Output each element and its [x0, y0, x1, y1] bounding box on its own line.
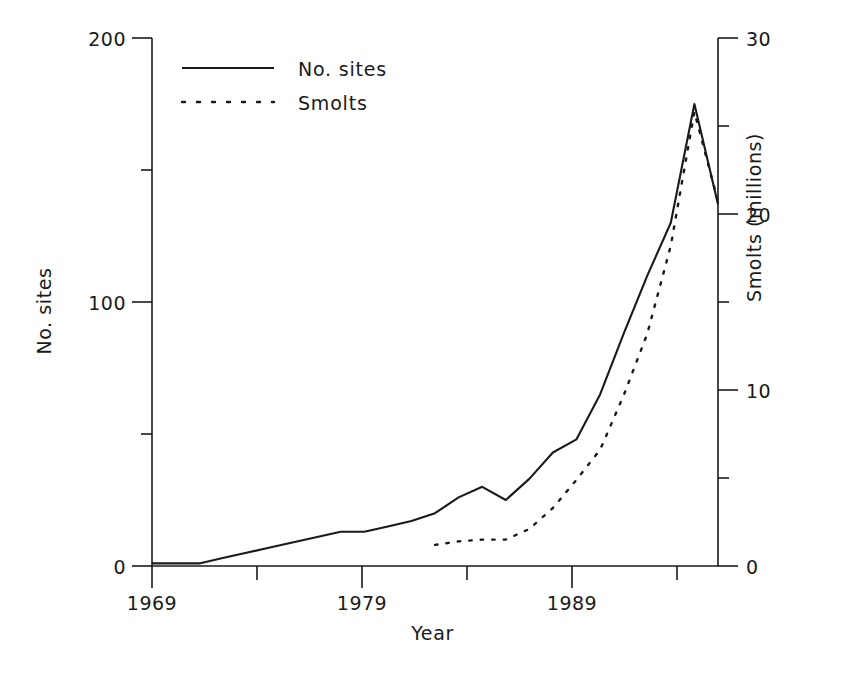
- ytick-left-0: 0: [56, 556, 126, 578]
- chart-figure: 0 100 200 0 10 20 30 1969 1979 1989 No. …: [0, 0, 865, 682]
- legend-label-no-sites: No. sites: [298, 58, 387, 80]
- legend-label-smolts: Smolts: [298, 92, 368, 114]
- x-axis-label: Year: [0, 622, 865, 644]
- ytick-right-0: 0: [746, 556, 816, 578]
- x-minor-ticks: [257, 566, 677, 580]
- series-smolts-line: [435, 112, 718, 545]
- y-axis-label-right: Smolts (millions): [743, 133, 765, 302]
- x-major-ticks: [152, 566, 572, 588]
- ytick-right-30: 30: [746, 28, 816, 50]
- xtick-1969: 1969: [107, 592, 197, 614]
- xtick-1989: 1989: [527, 592, 617, 614]
- series-no-sites-line: [152, 104, 718, 563]
- ytick-left-100: 100: [56, 292, 126, 314]
- left-major-ticks: [132, 38, 152, 566]
- y-axis-label-left: No. sites: [33, 251, 55, 371]
- ytick-left-200: 200: [56, 28, 126, 50]
- right-minor-ticks: [718, 126, 729, 478]
- ytick-right-10: 10: [746, 380, 816, 402]
- xtick-1979: 1979: [317, 592, 407, 614]
